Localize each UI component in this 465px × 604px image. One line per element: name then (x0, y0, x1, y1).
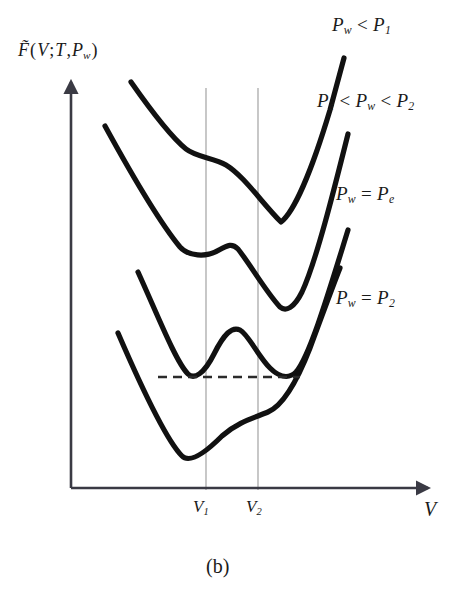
curve-label-pw-eq-p2: Pw = P2 (336, 287, 395, 311)
x-tick-label-v1: V1 (193, 497, 209, 517)
curve-pw-lt-p1 (131, 58, 344, 222)
curve-label-text: Pw = P2 (336, 287, 395, 308)
x-axis-label-text: V (424, 498, 436, 520)
curve-label-text: Pw < P1 (332, 14, 391, 35)
y-axis-label: F̃(V;T,Pw) (18, 40, 99, 61)
figure-caption: (b) (206, 555, 229, 578)
curve-label-pw-eq-pe: Pw = Pe (336, 183, 394, 207)
x-tick-label-v2: V2 (246, 497, 262, 517)
curve-label-pe-lt-pw-lt-p2: Pe < Pw < P2 (317, 90, 414, 114)
x-tick-text: V2 (246, 497, 262, 516)
x-tick-text: V1 (193, 497, 209, 516)
x-axis-label: V (424, 498, 436, 521)
curve-label-text: Pw = Pe (336, 183, 394, 204)
curve-label-text: Pe < Pw < P2 (317, 90, 414, 111)
curve-label-pw-lt-p1: Pw < P1 (332, 14, 391, 38)
y-axis-label-text: F̃(V;T,Pw) (18, 40, 99, 60)
